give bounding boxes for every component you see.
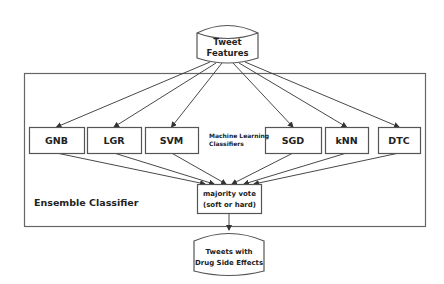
classifier-label: kNN [335, 135, 357, 146]
edge-knn-to-vote [244, 153, 347, 184]
edge-gnb-to-vote [57, 153, 206, 184]
input-line2: Features [206, 48, 248, 58]
ensemble-classifier-label: Ensemble Classifier [34, 197, 139, 208]
classifier-label: SGD [282, 135, 305, 146]
edge-sgd-to-vote [232, 153, 293, 184]
classifier-sgd[interactable]: SGD [266, 128, 322, 154]
edge-dtc-to-vote [254, 153, 399, 184]
ml-classifiers-label-line1: Machine Learning [209, 132, 269, 140]
output-line1: Tweets with [205, 248, 252, 256]
classifier-lgr[interactable]: LGR [88, 128, 142, 154]
classifier-label: SVM [160, 135, 184, 146]
ensemble-diagram: Tweet Features GNBLGRSVMSGDkNNDTC Machin… [0, 0, 444, 284]
classifier-label: GNB [45, 135, 68, 146]
output-node[interactable]: Tweets with Drug Side Effects [194, 234, 264, 276]
classifier-svm[interactable]: SVM [146, 128, 199, 154]
edge-input-to-dtc [245, 62, 399, 127]
edge-input-to-sgd [233, 63, 293, 127]
output-line2: Drug Side Effects [195, 259, 263, 267]
edge-input-to-svm [172, 63, 223, 127]
majority-vote-node[interactable]: majority vote (soft or hard) [198, 185, 262, 214]
edge-input-to-knn [239, 63, 347, 127]
vote-line2: (soft or hard) [203, 201, 256, 209]
edge-input-to-gnb [57, 62, 211, 127]
edge-input-to-lgr [114, 63, 216, 127]
classifier-label: LGR [103, 135, 125, 146]
tweet-features-node[interactable]: Tweet Features [197, 26, 258, 64]
ml-classifiers-label-line2: Classifiers [209, 140, 244, 147]
classifier-knn[interactable]: kNN [326, 128, 369, 154]
input-line1: Tweet [213, 37, 241, 47]
classifier-label: DTC [388, 135, 409, 146]
classifier-gnb[interactable]: GNB [30, 128, 85, 154]
classifier-dtc[interactable]: DTC [379, 128, 421, 154]
vote-line1: majority vote [203, 190, 256, 198]
